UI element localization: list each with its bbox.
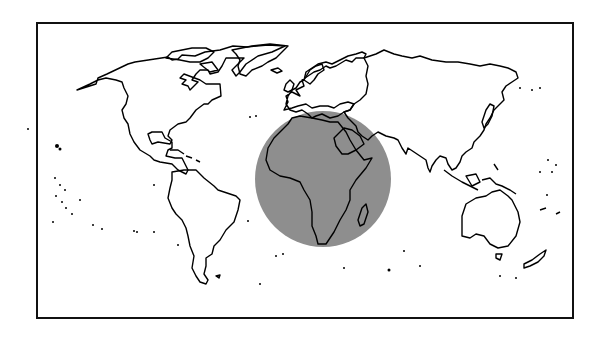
africa-highlight-circle bbox=[255, 111, 391, 247]
world-map bbox=[0, 0, 603, 340]
